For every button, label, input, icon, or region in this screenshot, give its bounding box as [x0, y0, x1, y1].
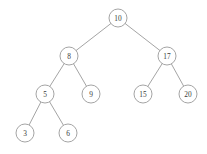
tree-canvas: 1081759152036: [0, 0, 207, 154]
node-label-20: 20: [184, 90, 192, 99]
tree-node-5[interactable]: 5: [36, 85, 54, 103]
tree-edge-10-17: [125, 24, 160, 51]
figure-caption: [0, 146, 207, 154]
tree-edge-10-8: [76, 24, 111, 51]
tree-edge-5-6: [50, 102, 64, 126]
tree-edge-5-3: [29, 102, 41, 125]
tree-node-6[interactable]: 6: [59, 124, 77, 142]
tree-edge-8-9: [74, 64, 87, 86]
tree-edge-17-20: [171, 64, 183, 86]
node-label-9: 9: [89, 90, 93, 99]
edges-layer: [29, 24, 184, 126]
nodes-layer: 1081759152036: [16, 9, 197, 142]
node-label-10: 10: [114, 14, 122, 23]
node-label-17: 17: [163, 52, 171, 61]
binary-search-tree-figure: 1081759152036: [0, 0, 207, 154]
tree-edge-8-5: [50, 64, 64, 87]
tree-node-17[interactable]: 17: [158, 47, 176, 65]
node-label-5: 5: [43, 90, 47, 99]
node-label-6: 6: [66, 129, 70, 138]
node-label-15: 15: [139, 90, 147, 99]
tree-node-8[interactable]: 8: [60, 47, 78, 65]
tree-edge-17-15: [148, 64, 162, 87]
tree-node-9[interactable]: 9: [82, 85, 100, 103]
node-label-8: 8: [67, 52, 71, 61]
tree-node-20[interactable]: 20: [179, 85, 197, 103]
tree-node-3[interactable]: 3: [16, 124, 34, 142]
tree-node-10[interactable]: 10: [109, 9, 127, 27]
tree-node-15[interactable]: 15: [134, 85, 152, 103]
node-label-3: 3: [23, 129, 27, 138]
